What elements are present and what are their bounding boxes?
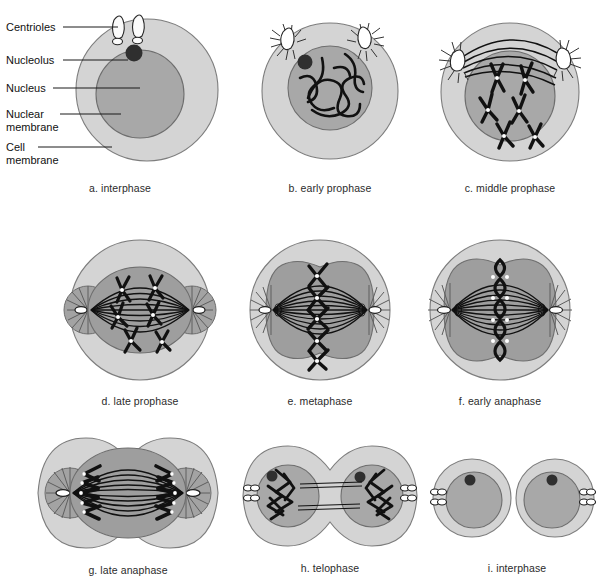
centriole-right	[358, 27, 371, 49]
panel-d-late-prophase: d. late prophase	[55, 232, 225, 392]
daughter-cell-right	[516, 459, 596, 537]
cell-diagram-daughter-cells	[432, 442, 600, 560]
centriole-left	[281, 28, 294, 50]
nucleolus-left	[267, 471, 278, 482]
panel-caption-c: c. middle prophase	[395, 182, 600, 194]
panel-f-early-anaphase: f. early anaphase	[415, 232, 585, 392]
panel-c-middle-prophase: c. middle prophase	[425, 6, 595, 178]
label-nuclear-text: Nuclear	[6, 108, 44, 120]
nucleolus-right	[547, 475, 558, 486]
panel-caption-i: i. interphase	[407, 562, 600, 574]
panel-h-telophase: h. telophase	[240, 440, 420, 560]
cell-diagram-telophase	[240, 440, 420, 560]
label-membrane-text-2: membrane	[6, 154, 59, 166]
cell-diagram-middle-prophase	[425, 6, 595, 178]
label-nuclear-membrane: Nuclear membrane	[6, 108, 59, 133]
centriole-right	[556, 48, 571, 69]
cell-diagram-metaphase	[235, 232, 405, 392]
panel-caption-a: a. interphase	[10, 182, 230, 194]
label-nucleolus: Nucleolus	[6, 54, 54, 67]
label-cell-text: Cell	[6, 141, 25, 153]
panel-caption-f: f. early anaphase	[385, 395, 600, 407]
label-centrioles-text: Centrioles	[6, 21, 56, 33]
cell-diagram-late-anaphase	[28, 430, 228, 560]
nucleolus-right	[355, 472, 366, 483]
label-cell-membrane: Cell membrane	[6, 141, 59, 166]
cell-diagram-early-prophase	[250, 6, 410, 178]
panel-g-late-anaphase: g. late anaphase	[28, 430, 228, 560]
label-centrioles: Centrioles	[6, 21, 56, 34]
label-nucleus: Nucleus	[6, 82, 46, 95]
panel-i-interphase-daughters: i. interphase	[432, 442, 600, 560]
panel-caption-g: g. late anaphase	[18, 564, 238, 576]
centriole-left	[450, 50, 465, 71]
label-membrane-text-1: membrane	[6, 121, 59, 133]
panel-e-metaphase: e. metaphase	[235, 232, 405, 392]
panel-b-early-prophase: b. early prophase	[250, 6, 410, 178]
nucleolus-left	[465, 475, 476, 486]
label-nucleus-text: Nucleus	[6, 82, 46, 94]
nucleolus	[298, 55, 313, 70]
nucleolus	[126, 45, 143, 62]
cell-diagram-early-anaphase	[415, 232, 585, 392]
daughter-cell-left	[431, 459, 512, 537]
cell-diagram-late-prophase	[55, 232, 225, 392]
label-nucleolus-text: Nucleolus	[6, 54, 54, 66]
